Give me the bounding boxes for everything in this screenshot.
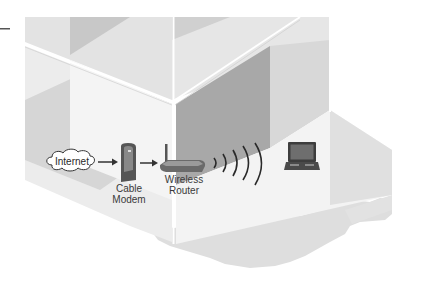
modem-label-line2: Modem: [108, 194, 150, 205]
router-label-line2: Router: [160, 185, 208, 196]
internet-label: Internet: [55, 156, 89, 167]
network-diagram: Internet Cable Modem Wireless Router: [0, 0, 429, 281]
modem-label: Cable Modem: [108, 183, 150, 205]
router-label-line1: Wireless: [160, 174, 208, 185]
margin-rule: [0, 28, 10, 30]
laptop-icon: [284, 142, 320, 170]
floor-edge: [330, 110, 392, 205]
room-illustration: [0, 0, 429, 281]
cable-modem-icon: [121, 143, 136, 182]
router-label: Wireless Router: [160, 174, 208, 196]
modem-label-line1: Cable: [108, 183, 150, 194]
